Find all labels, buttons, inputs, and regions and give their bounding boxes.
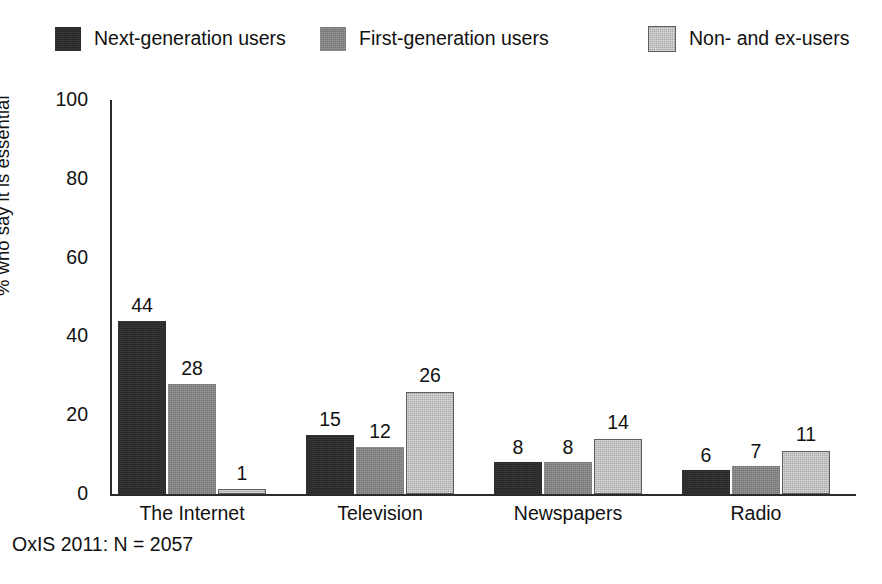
legend-swatch-non-and-ex <box>648 26 676 52</box>
bar-value-label-1-0: 15 <box>319 410 341 430</box>
legend-swatch-next-generation <box>55 27 81 51</box>
y-tick-label-60: 60 <box>66 248 88 268</box>
y-axis-tick-labels: 100806040200 <box>0 100 100 496</box>
legend-swatch-first-generation <box>320 27 346 51</box>
bar-value-label-2-2: 14 <box>607 413 629 433</box>
bar-3-0[interactable]: 6 <box>682 470 730 494</box>
bar-value-label-1-2: 26 <box>419 366 441 386</box>
x-category-label-1: Television <box>306 504 454 524</box>
bar-group-1: 151226 <box>306 100 454 494</box>
y-tick-label-20: 20 <box>66 405 88 425</box>
x-category-label-3: Radio <box>682 504 830 524</box>
bar-value-label-3-0: 6 <box>701 446 712 466</box>
bar-0-1[interactable]: 28 <box>168 384 216 494</box>
bar-value-label-2-1: 8 <box>563 438 574 458</box>
bar-1-2[interactable]: 26 <box>406 392 454 494</box>
bar-group-3: 6711 <box>682 100 830 494</box>
x-axis-line <box>110 494 856 496</box>
bar-2-1[interactable]: 8 <box>544 462 592 494</box>
bar-group-0: 44281 <box>118 100 266 494</box>
bar-1-0[interactable]: 15 <box>306 435 354 494</box>
x-category-label-0: The Internet <box>118 504 266 524</box>
y-axis-title: % who say it is essential <box>0 0 13 296</box>
x-category-label-2: Newspapers <box>494 504 642 524</box>
bar-1-1[interactable]: 12 <box>356 447 404 494</box>
bar-group-2: 8814 <box>494 100 642 494</box>
bar-3-2[interactable]: 11 <box>782 451 830 494</box>
legend-item-1[interactable]: First-generation users <box>320 22 549 56</box>
bar-0-2[interactable]: 1 <box>218 489 266 494</box>
legend-label-2: Non- and ex-users <box>689 29 849 49</box>
bar-value-label-2-0: 8 <box>513 438 524 458</box>
bar-2-0[interactable]: 8 <box>494 462 542 494</box>
bar-value-label-1-1: 12 <box>369 422 391 442</box>
bar-value-label-0-0: 44 <box>131 296 153 316</box>
bar-value-label-3-2: 11 <box>796 425 816 445</box>
y-tick-label-80: 80 <box>66 169 88 189</box>
bar-0-0[interactable]: 44 <box>118 321 166 494</box>
legend-label-0: Next-generation users <box>94 29 286 49</box>
chart-legend: Next-generation usersFirst-generation us… <box>0 22 882 62</box>
legend-item-2[interactable]: Non- and ex-users <box>648 22 849 56</box>
bar-value-label-3-1: 7 <box>751 442 762 462</box>
y-tick-label-40: 40 <box>66 327 88 347</box>
chart-footnote: OxIS 2011: N = 2057 <box>12 535 193 555</box>
y-axis-line <box>110 100 112 496</box>
legend-label-1: First-generation users <box>359 29 549 49</box>
bar-value-label-0-1: 28 <box>181 359 203 379</box>
plot-area: 44281The Internet151226Television8814New… <box>110 100 856 496</box>
bar-2-2[interactable]: 14 <box>594 439 642 494</box>
y-tick-label-0: 0 <box>77 484 88 504</box>
legend-item-0[interactable]: Next-generation users <box>55 22 286 56</box>
y-tick-label-100: 100 <box>55 90 88 110</box>
bar-value-label-0-2: 1 <box>237 464 248 484</box>
bar-3-1[interactable]: 7 <box>732 466 780 494</box>
